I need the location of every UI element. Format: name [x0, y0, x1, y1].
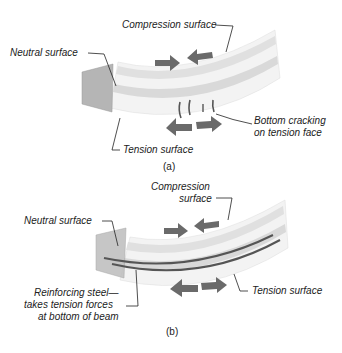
leader-compression [215, 25, 233, 52]
compression-arrow-right-icon [164, 223, 188, 238]
beam-end-face [96, 228, 126, 278]
label-neutral-surface: Neutral surface [10, 47, 78, 58]
caption-b: (b) [166, 326, 178, 337]
tension-arrow-right-icon [196, 116, 222, 132]
label-surface: surface [179, 193, 212, 204]
tension-arrow-left-icon [166, 118, 192, 136]
leader-tension [234, 274, 248, 291]
caption-a: (a) [163, 161, 175, 172]
label-compression-surface: Compression surface [122, 19, 217, 30]
label-bottom-cracking: Bottom cracking [254, 115, 326, 126]
label-tension-face: on tension face [254, 127, 322, 138]
label-tension-forces: takes tension forces [24, 299, 113, 310]
leader-cracking [216, 114, 252, 124]
label-tension-surface: Tension surface [252, 285, 323, 296]
panel-b: Compression surface Neutral surface Rein… [24, 181, 323, 337]
label-tension-surface: Tension surface [123, 144, 194, 155]
beam-bending-diagram: Compression surface Neutral surface Bott… [0, 0, 342, 353]
label-bottom-of-beam: at bottom of beam [38, 311, 119, 322]
beam-end-face [82, 64, 113, 112]
label-reinforcing-steel: Reinforcing steel— [34, 287, 119, 298]
label-compression: Compression [151, 181, 210, 192]
leader-tension [112, 118, 120, 150]
compression-arrow-left-icon [194, 218, 219, 233]
leader-compression [216, 198, 232, 220]
label-neutral-surface: Neutral surface [24, 215, 92, 226]
panel-a: Compression surface Neutral surface Bott… [10, 19, 326, 172]
